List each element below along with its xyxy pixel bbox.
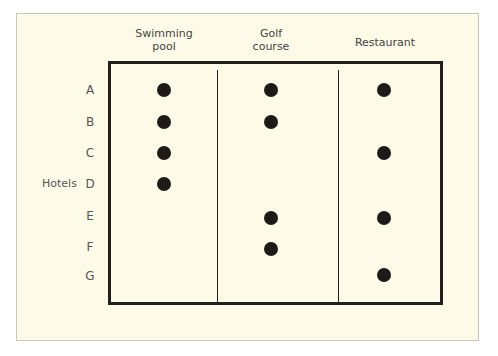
header-line: pool <box>109 40 219 53</box>
header-line: Swimming <box>109 27 219 40</box>
row-label-c: C <box>80 146 100 160</box>
row-axis-label: Hotels <box>42 177 77 190</box>
column-header-restaurant: Restaurant <box>330 36 440 49</box>
row-label-e: E <box>80 209 100 223</box>
amenity-dot <box>264 115 278 129</box>
column-header-swimming-pool: Swimming pool <box>109 27 219 53</box>
amenity-dot <box>264 242 278 256</box>
row-label-b: B <box>80 115 100 129</box>
amenity-dot <box>157 115 171 129</box>
header-line: course <box>216 40 326 53</box>
amenity-dot <box>157 177 171 191</box>
row-label-d: D <box>80 177 100 191</box>
column-divider <box>217 70 218 302</box>
amenity-dot <box>377 211 391 225</box>
row-label-f: F <box>80 240 100 254</box>
row-label-a: A <box>80 83 100 97</box>
amenity-dot <box>377 146 391 160</box>
column-divider <box>338 70 339 302</box>
amenity-dot <box>264 211 278 225</box>
header-line: Golf <box>216 27 326 40</box>
amenity-dot <box>157 146 171 160</box>
amenity-dot <box>157 83 171 97</box>
amenity-dot <box>264 83 278 97</box>
amenity-dot <box>377 83 391 97</box>
amenity-dot <box>377 268 391 282</box>
row-label-g: G <box>80 269 100 283</box>
header-line: Restaurant <box>330 36 440 49</box>
column-header-golf-course: Golf course <box>216 27 326 53</box>
